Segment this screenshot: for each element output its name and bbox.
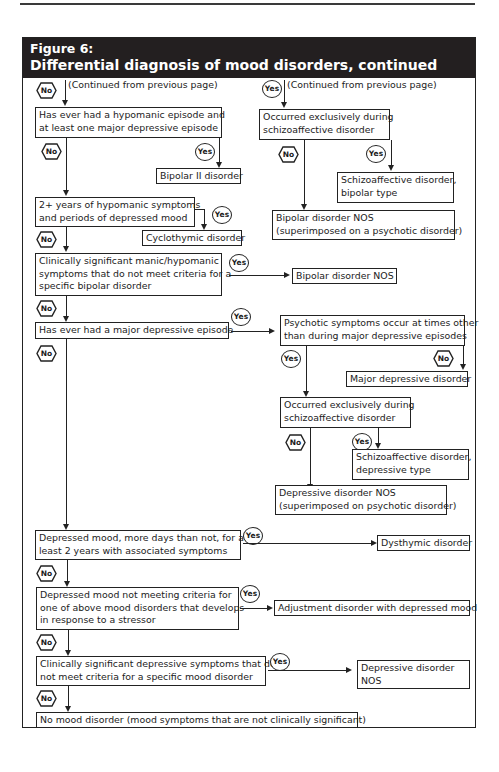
result-bipolar-nos-superimposed: Bipolar disorder NOS(superimposed on a p… (272, 210, 455, 240)
connector (231, 331, 269, 332)
connector (378, 428, 379, 443)
no-badge: No (41, 143, 62, 160)
question-ever-mde: Has ever had a major depressive episode (35, 322, 229, 339)
question-stressor: Depressed mood not meeting criteria foro… (36, 587, 239, 630)
connector (68, 686, 69, 706)
connector (66, 227, 67, 246)
no-badge: No (278, 146, 299, 163)
result-bipolar-nos: Bipolar disorder NOS (292, 268, 397, 284)
page-top-rule (20, 3, 475, 5)
arrow-head-right (269, 328, 275, 334)
arrow-head-down (63, 246, 69, 252)
connector (65, 80, 66, 100)
no-badge: No (36, 345, 57, 362)
result-dysthymic: Dysthymic disorder (377, 535, 470, 551)
continued-note: (Continued from previous page) (287, 79, 437, 91)
connector (195, 209, 204, 210)
result-no-mood-disorder: No mood disorder (mood symptoms that are… (36, 712, 358, 728)
question-hypomanic-and-mde: Has ever had a hypomanic episode andat l… (35, 107, 222, 138)
connector (306, 346, 307, 391)
result-adjustment: Adjustment disorder with depressed mood (274, 600, 470, 616)
yes-badge: Yes (262, 80, 282, 98)
connector (240, 608, 267, 609)
figure-header: Figure 6: Differential diagnosis of mood… (23, 38, 475, 78)
connector (66, 138, 67, 190)
no-badge: No (36, 634, 57, 651)
arrow-head-down (63, 190, 69, 196)
yes-badge: Yes (212, 206, 232, 224)
question-2yrs-hypomanic: 2+ years of hypomanic symptomsand period… (35, 197, 195, 227)
connector (304, 140, 305, 204)
result-cyclothymic: Cyclothymic disorder (142, 230, 242, 246)
result-depressive-nos: Depressive disorderNOS (357, 660, 470, 689)
question-psychotic-other-times: Psychotic symptoms occur at times othert… (280, 315, 465, 346)
no-badge: No (285, 434, 306, 451)
result-schizoaffective-bipolar: Schizoaffective disorder,bipolar type (337, 172, 454, 203)
no-badge: No (36, 231, 57, 248)
connector (66, 339, 67, 524)
arrow-head-down (62, 100, 68, 106)
yes-badge: Yes (281, 350, 301, 368)
connector (310, 428, 311, 484)
connector (243, 543, 371, 544)
no-badge: No (36, 690, 57, 707)
connector (67, 560, 68, 581)
connector (66, 296, 67, 316)
yes-badge: Yes (366, 145, 386, 163)
connector (391, 140, 392, 165)
connector (284, 80, 285, 102)
question-exclusively-schizoaffective: Occurred exclusively duringschizoaffecti… (259, 109, 390, 140)
question-exclusively-schizoaffective-2: Occurred exclusively duringschizoaffecti… (280, 397, 411, 428)
result-schizoaffective-depressive: Schizoaffective disorder,depressive type (352, 449, 469, 480)
yes-badge: Yes (270, 653, 290, 671)
arrow-head-right (346, 667, 352, 673)
question-depressed-2yrs: Depressed mood, more days than not, for … (35, 530, 241, 560)
no-badge: No (36, 565, 57, 582)
no-badge: No (36, 82, 57, 99)
result-depressive-nos-superimposed: Depressive disorder NOS(superimposed on … (275, 485, 447, 515)
arrow-head-down (281, 102, 287, 108)
connector (68, 630, 69, 650)
arrow-head-down (460, 364, 466, 370)
result-bipolar-ii: Bipolar II disorder (156, 168, 241, 184)
connector (229, 275, 284, 276)
arrow-head-right (267, 605, 273, 611)
connector (268, 670, 346, 671)
continued-note: (Continued from previous page) (68, 79, 218, 91)
connector (219, 138, 220, 162)
no-badge: No (433, 350, 454, 367)
connector (463, 346, 464, 364)
yes-badge: Yes (195, 143, 215, 161)
arrow-head-right (284, 272, 290, 278)
yes-badge: Yes (229, 254, 249, 272)
yes-badge: Yes (240, 585, 260, 603)
yes-badge: Yes (231, 308, 251, 326)
figure-label: Figure 6: (30, 41, 475, 56)
connector (204, 209, 205, 224)
result-major-depressive: Major depressive disorder (346, 371, 468, 387)
question-manic-not-meeting-criteria: Clinically significant manic/hypomanicsy… (35, 253, 222, 296)
question-depressive-not-meeting: Clinically significant depressive sympto… (36, 656, 266, 686)
no-badge: No (36, 300, 57, 317)
figure-title: Differential diagnosis of mood disorders… (30, 56, 475, 74)
arrow-head-down (388, 165, 394, 171)
